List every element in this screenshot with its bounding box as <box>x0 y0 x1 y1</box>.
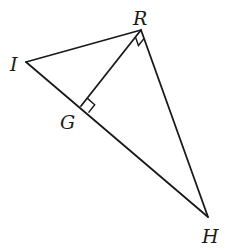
geometry-diagram: R I G H <box>0 0 226 249</box>
right-angle-marks <box>87 37 144 113</box>
vertex-labels: R I G H <box>9 7 219 247</box>
triangle-figure: R I G H <box>0 0 226 249</box>
vertex-label-i: I <box>9 53 18 75</box>
right-angle-mark-g <box>87 98 95 112</box>
vertex-label-g: G <box>60 111 75 133</box>
segment-IR <box>26 30 141 62</box>
segment-RG <box>81 30 141 106</box>
vertex-label-h: H <box>201 225 219 247</box>
right-angle-mark-r <box>135 37 144 45</box>
vertex-label-r: R <box>132 7 147 29</box>
triangle-segments <box>26 30 208 217</box>
